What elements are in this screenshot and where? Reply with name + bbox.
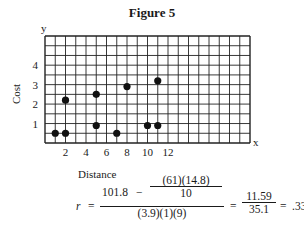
y-tick-label: 1 <box>33 118 39 130</box>
data-point <box>62 97 69 104</box>
formula-result-den: 35.1 <box>242 203 276 215</box>
data-point <box>52 130 59 137</box>
formula-result: .33 <box>292 200 304 212</box>
data-point <box>154 122 161 129</box>
x-tick-label: 12 <box>163 146 174 158</box>
formula-lhs: r <box>76 200 80 212</box>
y-tick-label: 3 <box>33 79 39 91</box>
y-axis-letter: y <box>41 22 47 34</box>
x-tick-label: 8 <box>124 146 130 158</box>
data-point <box>154 77 161 84</box>
x-tick-label: 6 <box>104 146 110 158</box>
data-point <box>113 130 120 137</box>
formula-inner-num: (61)(14.8) <box>150 174 222 186</box>
y-tick-label: 2 <box>33 98 39 110</box>
formula-minus: − <box>136 186 143 198</box>
y-axis-label: Cost <box>10 84 22 104</box>
x-tick-label: 10 <box>142 146 154 158</box>
x-tick-label: 2 <box>63 146 69 158</box>
formula-result-num: 11.59 <box>242 190 276 202</box>
y-tick-label: 4 <box>33 59 39 71</box>
formula-equals-2: = <box>230 200 237 212</box>
scatter-plot: 246810121234xy <box>0 0 304 180</box>
formula-equals: = <box>88 200 95 212</box>
data-point <box>62 130 69 137</box>
formula-main-fraction: 101.8 − (61)(14.8) 10 (3.9)(1)(9) <box>100 178 224 219</box>
formula-den: (3.9)(1)(9) <box>100 207 224 219</box>
x-tick-label: 4 <box>83 146 89 158</box>
formula-equals-3: = <box>280 200 287 212</box>
data-point <box>93 91 100 98</box>
x-axis-letter: x <box>253 136 259 148</box>
formula-result-fraction: 11.59 35.1 <box>242 190 276 215</box>
correlation-formula: r = 101.8 − (61)(14.8) 10 (3.9)(1)(9) = … <box>76 186 304 233</box>
data-point <box>144 122 151 129</box>
formula-inner-den: 10 <box>150 187 222 199</box>
formula-inner-fraction: (61)(14.8) 10 <box>150 174 222 199</box>
data-point <box>123 83 130 90</box>
formula-num-main: 101.8 <box>102 186 128 198</box>
data-point <box>93 122 100 129</box>
